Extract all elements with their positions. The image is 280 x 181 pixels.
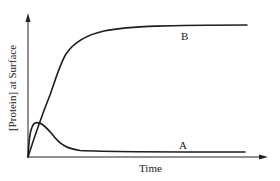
curve-b bbox=[28, 25, 247, 157]
y-axis-arrow-icon bbox=[26, 13, 31, 22]
curve-a bbox=[28, 123, 245, 157]
x-axis-arrow-icon bbox=[259, 155, 268, 160]
x-axis-label: Time bbox=[139, 162, 162, 174]
curve-b-label: B bbox=[181, 30, 188, 42]
curve-a-label: A bbox=[179, 139, 187, 151]
y-axis-label: [Protein] at Surface bbox=[6, 45, 18, 131]
line-chart: B A Time [Protein] at Surface bbox=[0, 0, 280, 181]
